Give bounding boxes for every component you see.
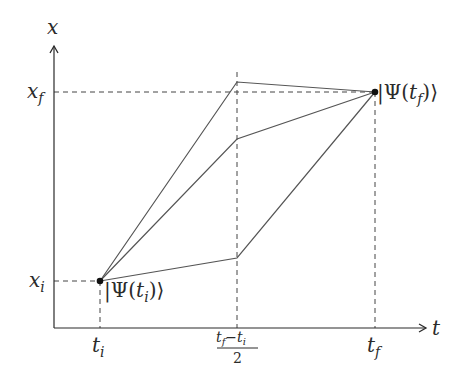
path-integral-diagram: x t xf xi ti tf−ti 2 tf |Ψ(ti)⟩ |Ψ(tf)⟩	[0, 0, 467, 387]
tf-tick-label: tf	[367, 333, 383, 360]
midpoint-tick-label: tf−ti 2	[216, 329, 258, 366]
x-axis-label: t	[432, 316, 441, 340]
svg-text:tf−ti: tf−ti	[216, 329, 246, 347]
svg-text:2: 2	[233, 350, 242, 366]
xf-tick-label: xf	[27, 79, 46, 106]
guide-lines	[54, 72, 375, 328]
y-axis-label: x	[47, 15, 58, 39]
initial-state-label: |Ψ(ti)⟩	[104, 278, 164, 305]
ti-tick-label: ti	[92, 333, 105, 360]
final-state-label: |Ψ(tf)⟩	[377, 80, 438, 107]
initial-state-point	[97, 278, 104, 285]
xi-tick-label: xi	[29, 268, 45, 295]
